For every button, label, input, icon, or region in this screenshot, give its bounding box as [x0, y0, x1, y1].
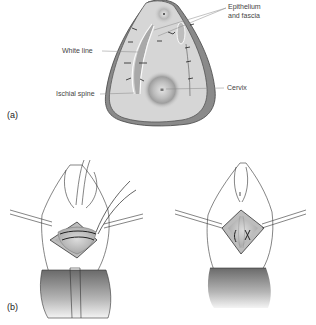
panel-b-label: (b) — [7, 302, 18, 312]
panel-b-right-drawing — [175, 163, 306, 308]
label-ischial-spine: Ischial spine — [56, 89, 95, 98]
label-cervix: Cervix — [227, 83, 247, 92]
panel-b-left-drawing — [10, 160, 143, 318]
panel-a-drawing — [100, 0, 226, 126]
label-epithelium-line2: and fascia — [228, 11, 261, 20]
panel-a-label: (a) — [7, 110, 18, 120]
label-epithelium-and-fascia: Epithelium and fascia — [228, 2, 261, 20]
label-white-line: White line — [62, 46, 93, 55]
label-epithelium-line1: Epithelium — [228, 2, 261, 11]
surgical-diagram — [0, 0, 316, 325]
